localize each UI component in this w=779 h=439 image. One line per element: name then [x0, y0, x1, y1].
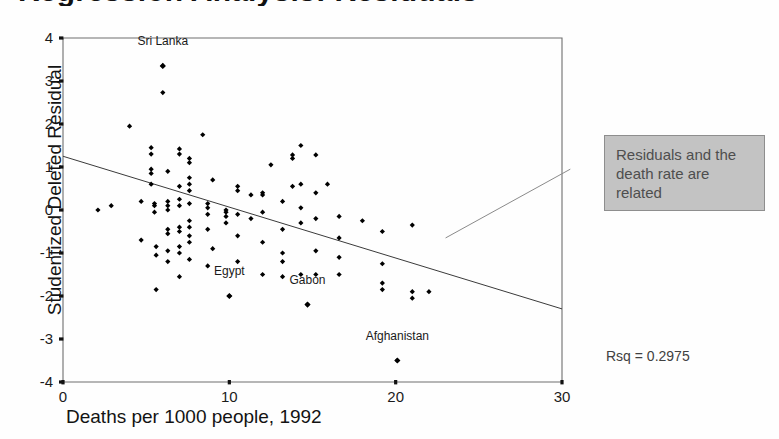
data-point	[280, 259, 285, 264]
data-point	[235, 233, 240, 238]
annotated-data-point	[304, 302, 310, 308]
callout-line-2: death rate are	[616, 164, 754, 183]
data-point	[177, 203, 182, 208]
annotated-data-point	[160, 63, 166, 69]
scatter-chart: Studentized Deleted Residual Deaths per …	[0, 0, 600, 439]
data-point	[313, 216, 318, 221]
x-axis-tick	[61, 380, 64, 384]
data-point	[205, 263, 210, 268]
data-point	[109, 203, 114, 208]
data-point	[298, 205, 303, 210]
data-point	[187, 201, 192, 206]
y-axis-tick-label: 4	[27, 29, 53, 46]
callout-annotation-box: Residuals and the death rate are related	[604, 135, 765, 211]
data-point	[360, 218, 365, 223]
data-point-label: Gabon	[289, 273, 325, 287]
y-axis-tick-label: 1	[27, 158, 53, 175]
data-point	[337, 255, 342, 260]
y-axis-tick-label: -3	[27, 330, 53, 347]
data-point	[149, 171, 154, 176]
data-point	[210, 177, 215, 182]
data-point	[290, 156, 295, 161]
data-point	[380, 281, 385, 286]
data-point	[410, 222, 415, 227]
callout-leader-line	[446, 169, 571, 238]
data-point	[235, 212, 240, 217]
data-point	[154, 244, 159, 249]
r-squared-label: Rsq = 0.2975	[606, 348, 690, 364]
y-axis-tick-label: 3	[27, 72, 53, 89]
x-axis-tick-label: 20	[381, 388, 411, 405]
data-point	[280, 250, 285, 255]
data-point	[205, 205, 210, 210]
data-point	[337, 272, 342, 277]
data-point	[260, 272, 265, 277]
data-point	[187, 175, 192, 180]
data-point	[223, 220, 228, 225]
data-point	[200, 132, 205, 137]
chart-screenshot: Regression Analysis: Residuals Studentiz…	[0, 0, 779, 439]
data-point	[187, 240, 192, 245]
data-point	[187, 218, 192, 223]
data-point	[139, 238, 144, 243]
data-point-label: Afghanistan	[366, 329, 429, 343]
data-point	[127, 124, 132, 129]
data-point	[139, 199, 144, 204]
data-point	[298, 220, 303, 225]
data-point	[280, 199, 285, 204]
data-point	[380, 229, 385, 234]
data-point	[260, 210, 265, 215]
data-point	[210, 246, 215, 251]
x-axis-tick	[560, 380, 563, 384]
data-point	[160, 90, 165, 95]
data-point	[313, 190, 318, 195]
data-point	[290, 184, 295, 189]
data-point	[337, 214, 342, 219]
data-point	[298, 182, 303, 187]
data-point	[187, 160, 192, 165]
data-point	[380, 261, 385, 266]
data-point	[313, 248, 318, 253]
data-point	[165, 231, 170, 236]
data-point	[95, 207, 100, 212]
data-point	[177, 184, 182, 189]
plot-canvas	[0, 0, 600, 439]
annotated-data-point	[394, 357, 400, 363]
x-axis-tick-label: 30	[547, 388, 577, 405]
y-axis-tick-label: -2	[27, 287, 53, 304]
data-point	[205, 227, 210, 232]
data-point	[165, 169, 170, 174]
data-point	[248, 216, 253, 221]
x-axis-tick-label: 10	[214, 388, 244, 405]
data-point	[380, 287, 385, 292]
data-point	[268, 162, 273, 167]
callout-line-1: Residuals and the	[616, 145, 754, 164]
data-point	[152, 210, 157, 215]
data-point	[165, 207, 170, 212]
data-point	[298, 143, 303, 148]
data-point-label: Egypt	[214, 264, 245, 278]
data-point	[165, 248, 170, 253]
data-point	[280, 227, 285, 232]
data-point	[426, 289, 431, 294]
data-point	[177, 250, 182, 255]
data-point	[410, 289, 415, 294]
data-point	[187, 188, 192, 193]
data-point	[313, 152, 318, 157]
y-axis-tick-label: 2	[27, 115, 53, 132]
data-point	[177, 146, 182, 151]
data-point	[177, 152, 182, 157]
data-point	[205, 212, 210, 217]
data-point	[248, 192, 253, 197]
data-point	[154, 287, 159, 292]
data-point	[177, 197, 182, 202]
data-point	[165, 259, 170, 264]
x-axis-title: Deaths per 1000 people, 1992	[66, 406, 322, 428]
data-point	[187, 225, 192, 230]
x-axis-tick	[228, 380, 231, 384]
data-point	[177, 274, 182, 279]
y-axis-tick-label: -1	[27, 244, 53, 261]
data-point	[410, 296, 415, 301]
x-axis-tick	[394, 380, 397, 384]
data-point	[325, 182, 330, 187]
